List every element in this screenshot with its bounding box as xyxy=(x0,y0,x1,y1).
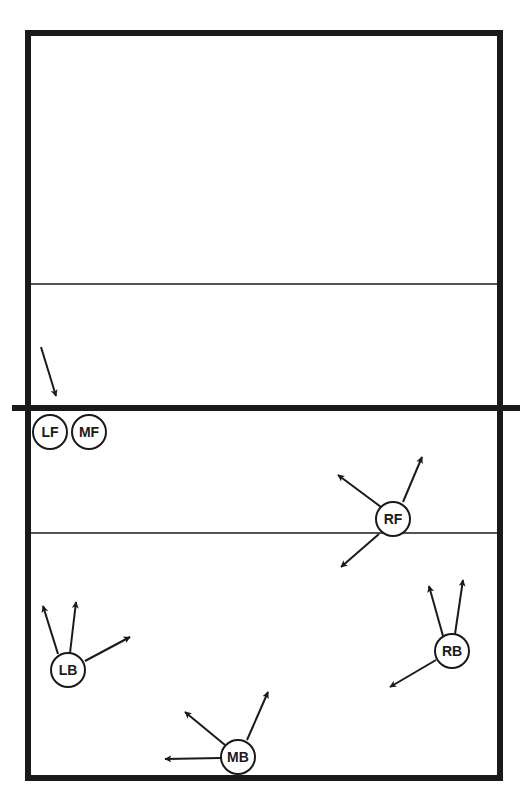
arrow-icon-lb xyxy=(70,602,76,653)
players: LFMFRFLBRBMB xyxy=(33,415,469,774)
player-rb: RB xyxy=(435,634,469,668)
player-label: RF xyxy=(384,511,403,527)
arrow-icon-rf xyxy=(341,534,379,567)
player-label: RB xyxy=(442,643,462,659)
arrow-icon-mb xyxy=(165,758,221,759)
player-lf: LF xyxy=(33,415,67,449)
arrow-icon-rf xyxy=(403,457,422,502)
player-label: LF xyxy=(41,424,59,440)
arrow-icon-mb xyxy=(247,692,268,740)
arrow-icon-rb xyxy=(390,660,436,687)
player-mb: MB xyxy=(221,740,255,774)
arrow-icon-lb xyxy=(43,606,58,654)
arrow-icon-rb xyxy=(455,580,463,634)
arrow-icon-lb xyxy=(85,637,130,661)
player-rf: RF xyxy=(376,502,410,536)
volleyball-court-diagram: LFMFRFLBRBMB xyxy=(0,0,530,810)
arrow-icon-lf xyxy=(41,347,56,396)
arrow-icon-rf xyxy=(338,475,381,507)
player-label: MB xyxy=(227,749,249,765)
player-lb: LB xyxy=(51,653,85,687)
player-label: MF xyxy=(79,424,100,440)
player-mf: MF xyxy=(72,415,106,449)
arrow-icon-mb xyxy=(185,712,225,745)
player-label: LB xyxy=(59,662,78,678)
arrow-icon-rb xyxy=(429,586,443,636)
